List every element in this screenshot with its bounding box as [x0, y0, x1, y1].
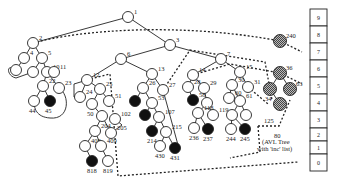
- node-label: 44: [29, 107, 36, 114]
- node-label: 431: [170, 154, 180, 161]
- tree-node-118: [193, 108, 204, 119]
- tree-node-431: [170, 143, 181, 154]
- tree-node-107: [154, 112, 165, 123]
- node-label: 205: [117, 124, 127, 131]
- pointer-links: [33, 30, 302, 176]
- tree-node-61: [235, 96, 246, 107]
- node-label: 1: [134, 8, 137, 15]
- tree-node-1: [123, 12, 134, 23]
- node-label: 818: [87, 167, 97, 174]
- node-label: 63: [296, 80, 303, 87]
- tree-node-45: [45, 96, 56, 107]
- tree-node-430: [155, 141, 166, 152]
- tree-node-28: [183, 82, 194, 93]
- node-label: 58: [199, 91, 206, 98]
- node-label: 409: [107, 137, 117, 144]
- node-label: 45: [45, 107, 52, 114]
- node-label: 22: [49, 77, 56, 84]
- node-label: 23: [65, 79, 72, 86]
- tree-node-123: [241, 110, 252, 121]
- array-index: 1: [317, 145, 320, 151]
- tree-node-7: [216, 54, 227, 65]
- tree-node-26: [138, 83, 149, 94]
- tree-node-52: [130, 96, 141, 107]
- node-label: 240: [286, 32, 296, 39]
- array-index: 5: [317, 83, 320, 89]
- tree-node-50: [87, 99, 98, 110]
- tree-node-409: [96, 141, 107, 152]
- tree-node-33: [274, 98, 287, 111]
- node-label: 12: [93, 71, 100, 78]
- array-index: 9: [317, 15, 320, 21]
- node-label: 215: [172, 123, 182, 130]
- array-index: 6: [317, 66, 320, 72]
- node-label: 61: [246, 92, 253, 99]
- tree-node-6: [116, 54, 127, 65]
- array-index: 4: [317, 100, 320, 106]
- tree-node-236: [189, 123, 200, 134]
- node-label: 2: [39, 34, 42, 41]
- tree-node-101: [97, 111, 108, 122]
- node-label: 34: [265, 95, 272, 102]
- node-label: 53: [158, 94, 165, 101]
- tree-node-106: [140, 110, 151, 121]
- node-label: 25: [106, 80, 113, 87]
- node-label: 107: [165, 108, 176, 115]
- tree-node-53: [147, 98, 158, 109]
- node-label: 5: [48, 49, 51, 56]
- tree-node-22: [38, 81, 49, 92]
- tree-node-58: [188, 95, 199, 106]
- node-label: 30: [238, 76, 245, 83]
- node-label: 24: [86, 88, 93, 95]
- tree-diagram: 1234510112223444561224255051102204205408…: [0, 0, 344, 186]
- tree-node-31: [243, 82, 254, 93]
- tree-node-240: [274, 35, 287, 48]
- tree-node-60: [224, 93, 235, 104]
- node-label: 50: [87, 110, 94, 117]
- array-index: 8: [317, 32, 320, 38]
- node-label: 245: [240, 135, 250, 142]
- node-label: 28: [194, 78, 201, 85]
- tree-node-408: [80, 141, 91, 152]
- node-label: 36: [286, 64, 293, 71]
- tree-node-818: [87, 156, 98, 167]
- node-label: 14: [199, 66, 206, 73]
- tree-node-25: [95, 84, 106, 95]
- tree-node-12: [82, 75, 93, 86]
- node-label: 26: [149, 79, 156, 86]
- node-label: 60: [235, 89, 242, 96]
- array-index: 7: [317, 49, 320, 55]
- tree-node-13: [147, 69, 158, 80]
- tree-node-63: [284, 83, 297, 96]
- node-label: 4: [30, 49, 34, 56]
- tree-node-51: [104, 96, 115, 107]
- array-index: 0: [317, 160, 320, 166]
- tree-node-3: [165, 40, 176, 51]
- node-label: 237: [203, 135, 214, 142]
- tree-node-819: [103, 156, 114, 167]
- node-label: 244: [226, 135, 237, 142]
- tree-node-204: [90, 126, 101, 137]
- node-label: 819: [103, 167, 113, 174]
- tree-node-34: [264, 83, 277, 96]
- tree-node-36: [274, 67, 287, 80]
- index-array: 9876543210: [310, 9, 327, 171]
- tree-node-245: [240, 124, 251, 135]
- array-index: 3: [317, 117, 320, 123]
- node-label: 15: [246, 63, 253, 70]
- node-label: 31: [254, 78, 261, 85]
- node-label: 29: [210, 79, 217, 86]
- tree-node-244: [226, 124, 237, 135]
- tree-node-214: [147, 126, 158, 137]
- node-label: 430: [155, 152, 165, 159]
- tree-node-102: [110, 114, 121, 125]
- node-label: 11: [60, 63, 66, 70]
- node-label: 27: [169, 81, 176, 88]
- tree-node-237: [203, 124, 214, 135]
- tree-node-215: [161, 127, 172, 138]
- tree-node-11: [49, 67, 60, 78]
- tree-node-9: [28, 67, 39, 78]
- tree-node-119: [208, 110, 219, 121]
- tree-node-23: [54, 83, 65, 94]
- caption-line-2: with 'inc' list): [257, 145, 292, 153]
